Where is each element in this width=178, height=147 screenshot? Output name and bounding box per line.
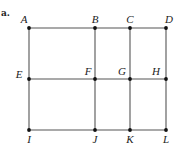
vertex-label-A: A xyxy=(21,14,28,25)
vertex-label-D: D xyxy=(165,14,173,25)
vertex-label-E: E xyxy=(16,69,23,80)
vertex-label-J: J xyxy=(93,134,98,145)
vertex-L xyxy=(164,128,168,132)
vertex-J xyxy=(93,128,97,132)
vertex-A xyxy=(27,26,31,30)
graph-diagram: a. ABCDEFGHIJKL xyxy=(0,0,178,147)
vertex-label-L: L xyxy=(163,134,169,145)
vertex-I xyxy=(27,128,31,132)
vertex-label-G: G xyxy=(118,66,126,77)
vertex-label-K: K xyxy=(126,134,133,145)
vertex-label-I: I xyxy=(27,134,31,145)
vertex-F xyxy=(93,77,97,81)
vertex-label-H: H xyxy=(152,66,160,77)
vertex-label-B: B xyxy=(92,14,99,25)
vertex-label-C: C xyxy=(126,14,133,25)
vertex-C xyxy=(128,26,132,30)
vertex-G xyxy=(128,77,132,81)
edges-group xyxy=(29,28,166,130)
vertex-H xyxy=(164,77,168,81)
vertex-label-F: F xyxy=(85,66,92,77)
vertex-B xyxy=(93,26,97,30)
vertex-K xyxy=(128,128,132,132)
vertex-E xyxy=(27,77,31,81)
vertex-D xyxy=(164,26,168,30)
